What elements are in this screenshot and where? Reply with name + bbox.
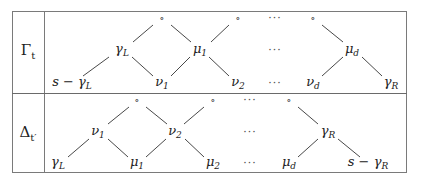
- math-node: γL: [51, 155, 65, 172]
- ellipsis-node: ···: [268, 13, 282, 24]
- math-node: νd: [306, 75, 320, 92]
- ellipsis-node: ···: [268, 45, 282, 56]
- math-node: γR: [321, 124, 336, 141]
- ellipsis-node: ···: [243, 95, 257, 106]
- math-node: μ1: [193, 42, 207, 59]
- diagram-edge: [133, 25, 153, 42]
- diagram-edge: [298, 107, 318, 124]
- diagram-edge: [209, 57, 229, 76]
- circle-node-icon: ∘: [286, 95, 291, 106]
- circle-node-icon: ∘: [134, 95, 139, 106]
- diagram-edge: [322, 57, 343, 76]
- diagram-edge: [146, 139, 166, 157]
- circle-node-icon: ∘: [235, 13, 240, 24]
- math-node: μd: [345, 42, 359, 59]
- math-node: ν1: [155, 75, 169, 92]
- diagram-edge: [146, 107, 167, 124]
- diagram-edge: [83, 57, 109, 76]
- diagram-edge: [108, 139, 128, 157]
- circle-node-icon: ∘: [210, 95, 215, 106]
- math-node: γR: [384, 75, 399, 92]
- diagram-edge: [171, 57, 190, 76]
- diagram-edge: [322, 25, 343, 42]
- diagram-edge: [184, 107, 204, 124]
- diagram-edge: [362, 57, 382, 76]
- math-node: s − γR: [348, 155, 388, 172]
- math-node: s − γL: [52, 75, 92, 92]
- diagram-edge: [108, 107, 129, 124]
- ellipsis-node: ···: [243, 127, 257, 138]
- diagram-edge: [211, 25, 229, 42]
- math-node: ν2: [168, 124, 182, 141]
- ellipsis-node: ···: [268, 78, 282, 89]
- circle-node-icon: ∘: [159, 13, 164, 24]
- ellipsis-node: ···: [243, 158, 257, 169]
- math-node: ν1: [91, 124, 105, 141]
- diagram-edge: [298, 139, 318, 157]
- diagram-edge: [171, 25, 191, 42]
- math-node: μ1: [130, 155, 144, 172]
- circle-node-icon: ∘: [310, 13, 315, 24]
- diagram-edge: [132, 57, 153, 76]
- math-node: μ2: [206, 155, 220, 172]
- diagram-edge: [68, 139, 89, 157]
- math-node: ν2: [231, 75, 245, 92]
- diagram-edge: [185, 139, 204, 157]
- math-node: μd: [282, 155, 296, 172]
- math-node: γL: [115, 42, 129, 59]
